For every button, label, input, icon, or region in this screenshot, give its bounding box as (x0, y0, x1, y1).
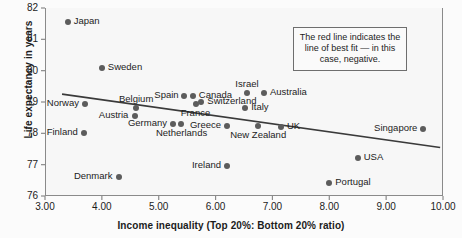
data-point-label: Israel (235, 79, 258, 89)
data-point (244, 90, 250, 96)
data-point-label: Greece (190, 120, 221, 130)
data-point-label: Finland (47, 127, 78, 137)
data-point-label: Spain (154, 90, 178, 100)
data-point (65, 19, 71, 25)
data-point-label: UK (287, 121, 300, 131)
annotation-callout: The red line indicates the line of best … (293, 27, 407, 71)
data-point (190, 93, 196, 99)
data-point-label: Denmark (74, 171, 113, 181)
data-point-label: Sweden (108, 62, 142, 72)
data-point-label: Japan (74, 16, 100, 26)
data-point-label: Switzerland (207, 96, 256, 106)
data-point (420, 126, 426, 132)
data-point-label: Austria (99, 110, 129, 120)
data-point-label: Italy (251, 102, 268, 112)
data-point (255, 123, 261, 129)
data-point-label: New Zealand (230, 130, 286, 140)
data-point-label: Portugal (335, 177, 370, 187)
data-point-label: Singapore (374, 123, 417, 133)
data-point-label: Norway (47, 98, 79, 108)
scatter-chart: Life expectancy in years Income inequali… (0, 0, 462, 238)
data-point-label: Ireland (192, 160, 221, 170)
data-point (81, 130, 87, 136)
data-point (193, 101, 199, 107)
data-point (82, 101, 88, 107)
data-point (261, 90, 267, 96)
data-point-label: Australia (270, 87, 307, 97)
data-point-label: Belgium (119, 94, 153, 104)
data-point (99, 65, 105, 71)
data-point-label: France (181, 108, 211, 118)
data-point (224, 123, 230, 129)
data-point (278, 124, 284, 130)
data-point-label: USA (364, 152, 384, 162)
